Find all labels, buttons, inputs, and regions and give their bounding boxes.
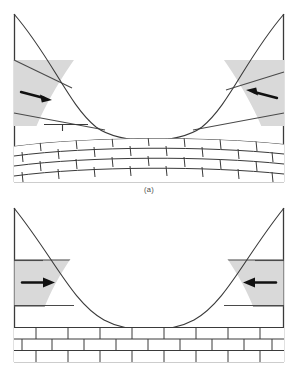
panel-a: (a) xyxy=(0,0,298,196)
bedrock-horizontal-brick xyxy=(14,327,284,362)
figure-container: (a) xyxy=(0,0,298,376)
caption-panel-a: (a) xyxy=(0,185,298,194)
panel-a-diagram xyxy=(0,0,298,196)
bedrock-folded-brick xyxy=(14,136,284,182)
panel-b: (b) xyxy=(0,196,298,376)
panel-b-diagram xyxy=(0,196,298,376)
